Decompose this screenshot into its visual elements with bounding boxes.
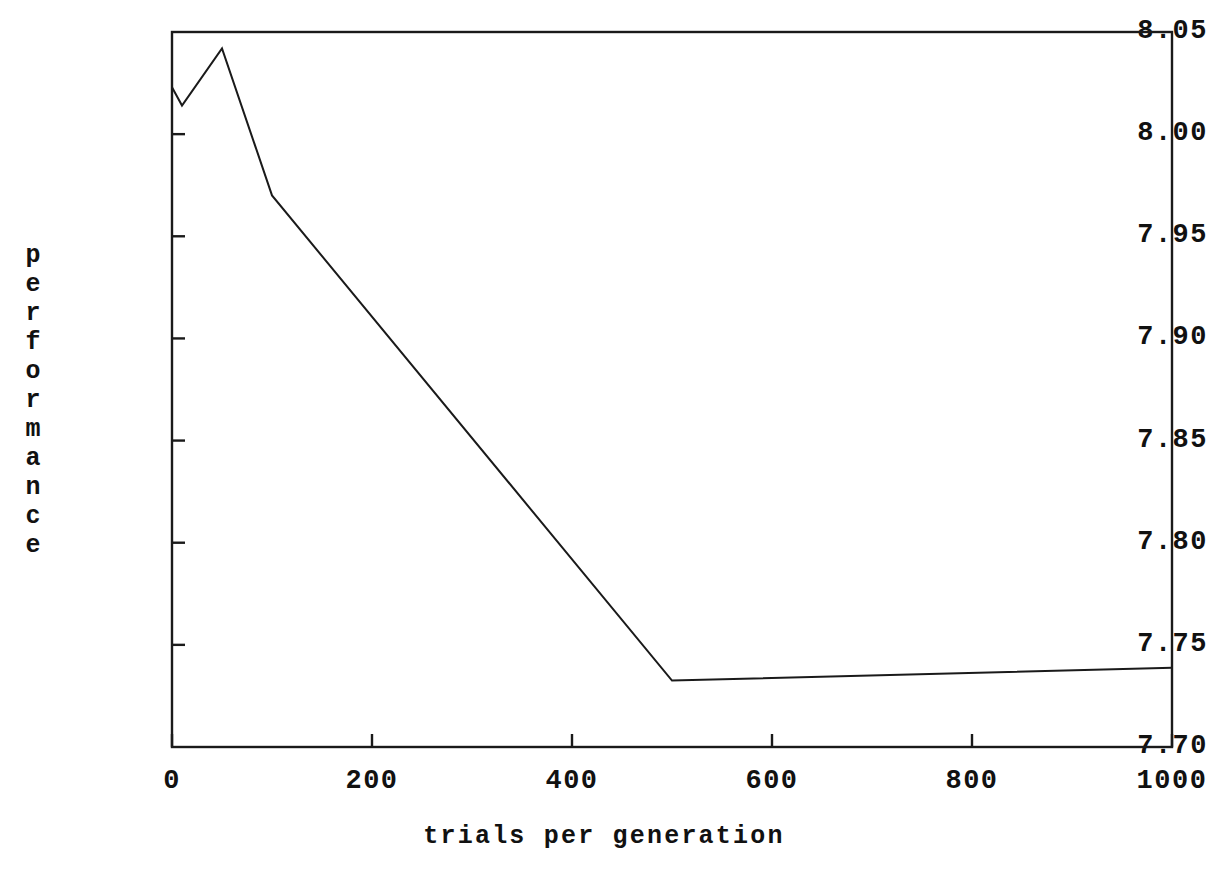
plot-frame bbox=[172, 32, 1172, 747]
chart-figure: p e r f o r m a n c e 8.05 8.00 7.95 7.9… bbox=[0, 0, 1208, 881]
data-series-line bbox=[172, 48, 1172, 680]
plot-frame-rect bbox=[172, 32, 1172, 747]
series-line bbox=[172, 48, 1172, 680]
plot-area bbox=[0, 0, 1208, 881]
axis-ticks bbox=[172, 134, 1172, 747]
